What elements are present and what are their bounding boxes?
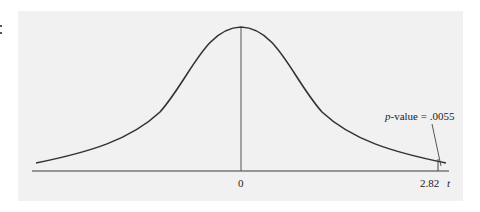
axis-label-t: t bbox=[447, 177, 450, 189]
pvalue-annotation: p-value = .0055 bbox=[385, 110, 454, 122]
tick-label-zero: 0 bbox=[238, 177, 244, 189]
pvalue-text: -value = .0055 bbox=[391, 110, 455, 122]
tick-label-stat: 2.82 bbox=[420, 177, 439, 189]
